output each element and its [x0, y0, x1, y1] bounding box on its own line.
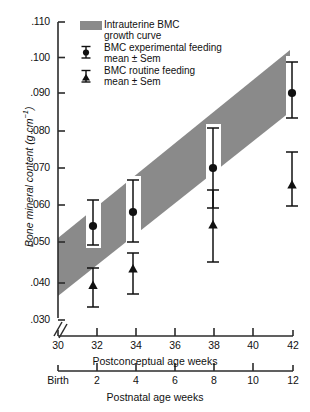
y-tick-label-040: .040 [16, 276, 50, 288]
y-tick-label-100: .100 [16, 51, 50, 63]
y-axis-title-text: Bone mineral content (g cm [23, 119, 35, 247]
point-routine-42 [287, 180, 296, 189]
y-axis-title-tail: ) [23, 107, 35, 111]
x-axis-title: Postconceptual age weeks [0, 355, 310, 367]
errorbar-routine-42 [286, 152, 298, 206]
y-tick-label-030: .030 [16, 313, 50, 325]
point-routine-38 [208, 220, 217, 229]
point-routine-32 [88, 281, 97, 290]
legend-experimental-text: BMC experimental feeding mean ± Sem [104, 42, 222, 64]
legend-experimental-line2: mean ± Sem [104, 53, 222, 64]
legend-band-swatch-slot [78, 19, 104, 41]
legend-circle-slot [78, 42, 104, 64]
x-tick-label-36: 36 [160, 339, 190, 351]
x-tick-label-32: 32 [82, 339, 112, 351]
x2-tick-label-6: 6 [160, 374, 190, 386]
legend-routine-line2: mean ± Sem [104, 76, 195, 87]
x2-tick-label-8: 8 [199, 374, 229, 386]
legend-band-line2: growth curve [104, 30, 180, 41]
chart-figure: .110 .100 .090 .080 .070 .060 .050 .040 … [0, 0, 310, 412]
x2-tick-label-12: 12 [278, 374, 308, 386]
x-tick-label-38: 38 [199, 339, 229, 351]
y-tick-label-110: .110 [16, 15, 50, 27]
legend-band-text: Intrauterine BMC growth curve [104, 19, 180, 41]
y-axis-title-exponent: −1 [21, 110, 30, 119]
band-notch-42 [286, 56, 300, 122]
y-axis-title: Bone mineral content (g cm−1) [21, 87, 35, 267]
legend-band-line1: Intrauterine BMC [104, 19, 180, 30]
point-experimental-42 [288, 89, 296, 97]
chart-legend: Intrauterine BMC growth curve BMC experi… [78, 19, 258, 88]
legend-entry-experimental: BMC experimental feeding mean ± Sem [78, 42, 258, 64]
x2-tick-label-10: 10 [238, 374, 268, 386]
legend-triangle-slot [78, 65, 104, 87]
x-tick-label-42: 42 [278, 339, 308, 351]
x-tick-label-40: 40 [238, 339, 268, 351]
point-experimental-32 [89, 222, 97, 230]
point-experimental-38 [209, 164, 217, 172]
x-axis-primary [58, 328, 293, 336]
x-tick-label-34: 34 [121, 339, 151, 351]
legend-entry-band: Intrauterine BMC growth curve [78, 19, 258, 41]
x2-tick-label-birth: Birth [36, 374, 80, 386]
x2-tick-label-4: 4 [121, 374, 151, 386]
x2-axis-title: Postnatal age weeks [0, 391, 310, 403]
point-experimental-34 [129, 208, 137, 216]
x2-tick-label-2: 2 [82, 374, 112, 386]
legend-entry-routine: BMC routine feeding mean ± Sem [78, 65, 258, 87]
point-routine-34 [128, 264, 137, 273]
legend-experimental-line1: BMC experimental feeding [104, 42, 222, 53]
legend-routine-text: BMC routine feeding mean ± Sem [104, 65, 195, 87]
errorbar-routine-34 [127, 253, 139, 294]
band-swatch-icon [80, 21, 102, 30]
legend-routine-line1: BMC routine feeding [104, 65, 195, 76]
x-tick-label-30: 30 [43, 339, 73, 351]
